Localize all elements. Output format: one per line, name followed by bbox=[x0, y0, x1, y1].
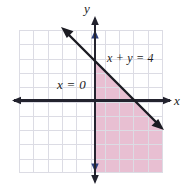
x-axis-arrow-left bbox=[12, 97, 21, 105]
y-axis-label: y bbox=[84, 2, 90, 15]
x-axis-label: x bbox=[174, 94, 180, 107]
coordinate-plane-svg bbox=[0, 0, 192, 185]
graph-figure: y x x = 0 x + y = 4 bbox=[0, 0, 192, 185]
y-axis-arrow-down bbox=[91, 175, 99, 184]
diagonal-boundary-equation-label: x + y = 4 bbox=[107, 52, 154, 64]
vertical-boundary-equation-label: x = 0 bbox=[57, 78, 86, 91]
y-axis-arrow-up bbox=[91, 16, 99, 25]
x-axis-arrow-right bbox=[163, 97, 172, 105]
